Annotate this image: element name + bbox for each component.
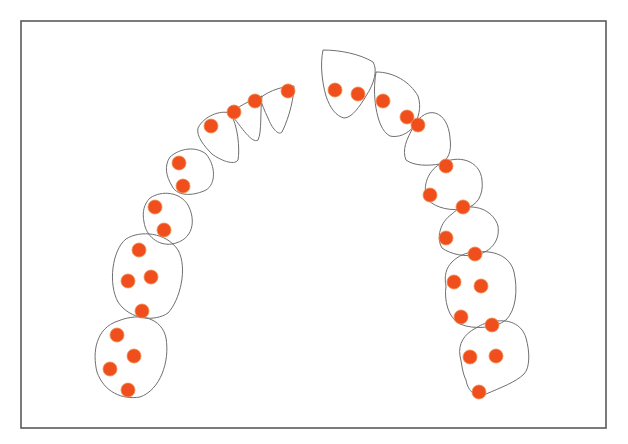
marker-dot <box>328 83 342 97</box>
marker-dot <box>454 310 468 324</box>
marker-dot <box>376 94 390 108</box>
marker-dot <box>411 118 425 132</box>
marker-dot <box>110 328 124 342</box>
marker-dot <box>474 279 488 293</box>
marker-dot <box>456 200 470 214</box>
marker-dot <box>468 247 482 261</box>
marker-dot <box>127 349 141 363</box>
marker-dot <box>135 304 149 318</box>
marker-dot <box>439 231 453 245</box>
marker-dot <box>204 119 218 133</box>
marker-dot <box>132 243 146 257</box>
marker-dot <box>121 383 135 397</box>
marker-dot <box>157 223 171 237</box>
marker-dot <box>423 188 437 202</box>
marker-dot <box>103 362 117 376</box>
marker-dot <box>485 318 499 332</box>
marker-dot <box>121 274 135 288</box>
marker-dot <box>176 179 190 193</box>
marker-dot <box>248 94 262 108</box>
marker-dot <box>447 275 461 289</box>
marker-dot <box>463 350 477 364</box>
marker-dot <box>172 156 186 170</box>
marker-dot <box>281 84 295 98</box>
marker-dot <box>439 159 453 173</box>
marker-dot <box>472 385 486 399</box>
marker-dot <box>489 349 503 363</box>
dental-arch-diagram <box>0 0 628 444</box>
marker-dot <box>144 270 158 284</box>
marker-dot <box>148 200 162 214</box>
marker-dot <box>351 87 365 101</box>
marker-dot <box>227 105 241 119</box>
